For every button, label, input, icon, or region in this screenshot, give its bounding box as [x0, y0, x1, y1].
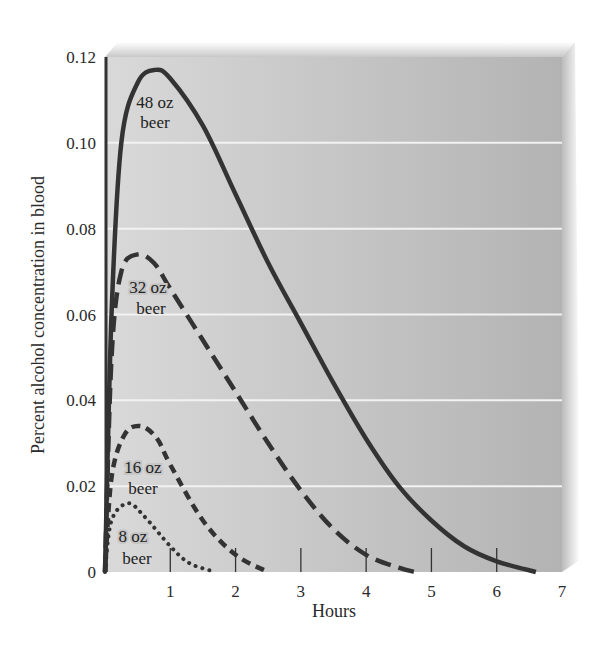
- x-tick-label: 6: [492, 582, 501, 601]
- y-tick-label: 0.06: [66, 306, 96, 325]
- svg-text:beer: beer: [140, 113, 170, 132]
- panel-right-bevel: [562, 42, 580, 572]
- y-tick-label: 0.04: [66, 391, 96, 410]
- series-label-48oz: 48 oz beer: [136, 93, 174, 132]
- svg-text:16 oz: 16 oz: [124, 458, 162, 477]
- y-axis-title: Percent alcohol concentration in blood: [28, 176, 48, 454]
- svg-text:beer: beer: [122, 549, 152, 568]
- x-tick-label: 4: [362, 582, 371, 601]
- svg-text:48 oz: 48 oz: [136, 93, 174, 112]
- y-tick-label: 0.02: [66, 477, 96, 496]
- svg-text:beer: beer: [128, 479, 158, 498]
- chart: 00.020.040.060.080.100.12 1234567 Hours …: [0, 0, 603, 651]
- x-tick-label: 5: [427, 582, 436, 601]
- x-tick-label: 1: [166, 582, 175, 601]
- y-tick-label: 0: [88, 563, 97, 582]
- svg-text:8 oz: 8 oz: [119, 527, 148, 546]
- y-tick-label: 0.08: [66, 220, 96, 239]
- x-axis-tick-labels: 1234567: [166, 582, 567, 601]
- svg-text:beer: beer: [136, 299, 166, 318]
- x-tick-label: 2: [231, 582, 240, 601]
- x-tick-label: 7: [558, 582, 567, 601]
- y-tick-label: 0.10: [66, 134, 96, 153]
- x-axis-title: Hours: [312, 601, 356, 621]
- plot-panel: [105, 42, 580, 572]
- y-tick-label: 0.12: [66, 48, 96, 67]
- x-tick-label: 3: [297, 582, 306, 601]
- svg-text:32 oz: 32 oz: [129, 278, 167, 297]
- panel-top-bevel: [105, 42, 575, 57]
- y-axis-tick-labels: 00.020.040.060.080.100.12: [66, 48, 96, 582]
